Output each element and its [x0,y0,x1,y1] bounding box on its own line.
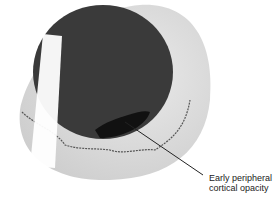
annotation-line-2: cortical opacity [209,183,272,193]
lens-diagram [0,0,278,200]
annotation-line-1: Early peripheral [209,173,272,183]
annotation-label: Early peripheral cortical opacity [209,173,272,193]
